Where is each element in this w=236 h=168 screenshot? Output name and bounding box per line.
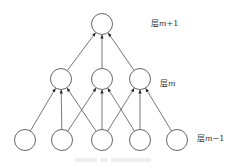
label-layer-m-minus-1: 层m−1 xyxy=(197,135,224,143)
layer-m-minus-1-node-0 xyxy=(15,130,36,151)
edge-arrow xyxy=(61,90,62,130)
layer-m-node-0 xyxy=(51,69,72,90)
edge-arrow xyxy=(67,33,95,71)
label-layer-m-plus-1: 层m+1 xyxy=(151,20,178,28)
label-layer-m: 层m xyxy=(160,80,176,88)
edge-arrow xyxy=(108,33,134,70)
edge-arrow xyxy=(30,88,55,130)
figure-caption-faint xyxy=(75,158,160,163)
layer-m-minus-1-node-4 xyxy=(167,130,188,151)
edge-arrow xyxy=(146,88,172,131)
layer-m-node-1 xyxy=(92,69,113,90)
layer-m-node-2 xyxy=(130,69,151,90)
layer-m-minus-1-node-3 xyxy=(130,130,151,151)
layer-m-plus-1-node-0 xyxy=(92,14,113,35)
layer-m-minus-1-node-2 xyxy=(92,130,113,151)
layer-m-minus-1-node-1 xyxy=(52,130,73,151)
